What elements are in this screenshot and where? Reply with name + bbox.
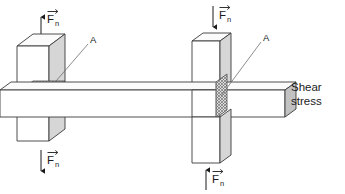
area-label-normal: A: [90, 34, 97, 45]
force-symbol-bottom-shear: F: [212, 173, 219, 185]
caption-shear-line1: Shear: [291, 81, 322, 93]
figure-canvas: F n A: [0, 0, 345, 194]
area-a-patch-shear: [216, 74, 227, 118]
area-label-shear: A: [263, 32, 270, 43]
bottom-force-label-shear: F n: [212, 169, 224, 188]
force-subscript-top-shear: n: [227, 15, 231, 24]
top-force-label-normal: F n: [47, 9, 59, 28]
force-symbol-top-normal: F: [47, 13, 54, 25]
shear-horizontal-plate: [0, 82, 296, 117]
force-symbol-bottom-normal: F: [47, 154, 54, 166]
force-subscript-bottom-shear: n: [220, 179, 224, 188]
top-force-label-shear: F n: [219, 5, 231, 24]
caption-shear-line2: stress: [291, 95, 322, 107]
stress-diagram-figure: F n A: [0, 0, 345, 194]
force-symbol-top-shear: F: [219, 9, 226, 21]
force-subscript-top-normal: n: [55, 19, 59, 28]
cross-section-area-shear: [216, 74, 227, 118]
force-subscript-bottom-normal: n: [55, 160, 59, 169]
plate-front-face-shear: [0, 90, 285, 117]
bottom-force-label-normal: F n: [47, 150, 59, 169]
plate-top-face-shear: [0, 82, 296, 90]
shear-punch-lower-bar: [192, 109, 231, 163]
